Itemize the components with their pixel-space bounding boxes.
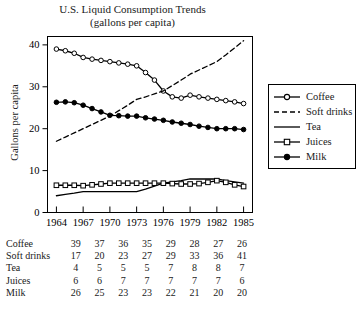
- legend-item-tea[interactable]: Tea: [269, 119, 355, 134]
- table-cell: 23: [111, 250, 135, 262]
- table-cell: 26: [230, 238, 254, 250]
- legend-sample-open-circle-icon: [273, 91, 301, 103]
- table-cell: 4: [64, 262, 88, 274]
- svg-text:1973: 1973: [126, 217, 147, 228]
- table-cell: 7: [206, 275, 230, 287]
- table-cell: 23: [135, 287, 159, 299]
- series-milk: [54, 100, 246, 132]
- x-axis-ticks: [56, 207, 243, 213]
- table-cell: 28: [183, 238, 207, 250]
- table-row: Tea45557887: [4, 262, 254, 274]
- table-row-label: Juices: [4, 275, 64, 287]
- legend-label-coffee: Coffee: [306, 91, 334, 103]
- svg-text:1967: 1967: [73, 217, 94, 228]
- svg-text:1970: 1970: [99, 217, 120, 228]
- table-cell: 33: [183, 250, 207, 262]
- svg-text:1979: 1979: [180, 217, 201, 228]
- table-cell: 29: [159, 250, 183, 262]
- legend-label-tea: Tea: [306, 121, 321, 133]
- svg-text:20: 20: [29, 123, 40, 134]
- table-cell: 6: [88, 275, 112, 287]
- svg-text:1985: 1985: [233, 217, 254, 228]
- table-cell: 35: [135, 238, 159, 250]
- chart-series-group: [54, 41, 246, 196]
- table-cell: 27: [135, 250, 159, 262]
- legend-sample-open-square-icon: [273, 136, 301, 148]
- table-cell: 20: [230, 287, 254, 299]
- table-cell: 7: [135, 275, 159, 287]
- table-cell: 29: [159, 238, 183, 250]
- table-cell: 7: [111, 275, 135, 287]
- table-cell: 20: [206, 287, 230, 299]
- table-cell: 5: [111, 262, 135, 274]
- table-row-label: Milk: [4, 287, 64, 299]
- table-row-label: Soft drinks: [4, 250, 64, 262]
- svg-text:40: 40: [29, 39, 40, 50]
- axis-frame: [48, 37, 253, 213]
- table-cell: 26: [64, 287, 88, 299]
- table-cell: 5: [135, 262, 159, 274]
- table-cell: 21: [183, 287, 207, 299]
- table-cell: 20: [88, 250, 112, 262]
- table-cell: 7: [159, 275, 183, 287]
- y-axis-title: Gallons per capita: [9, 68, 20, 178]
- svg-text:0: 0: [34, 207, 39, 218]
- table-cell: 5: [88, 262, 112, 274]
- table-cell: 39: [64, 238, 88, 250]
- table-row: Juices66777776: [4, 275, 254, 287]
- legend-sample-filled-circle-icon: [273, 151, 301, 163]
- table-cell: 7: [183, 275, 207, 287]
- legend-label-soft-drinks: Soft drinks: [306, 106, 352, 118]
- table-row: Soft drinks1720232729333641: [4, 250, 254, 262]
- table-cell: 8: [183, 262, 207, 274]
- legend-item-coffee[interactable]: Coffee: [269, 89, 355, 104]
- table-cell: 7: [230, 262, 254, 274]
- svg-text:30: 30: [29, 81, 40, 92]
- table-row-label: Tea: [4, 262, 64, 274]
- x-axis-tick-labels: 19641967197019731976197919821985: [46, 217, 254, 228]
- svg-text:1964: 1964: [46, 217, 68, 228]
- legend-item-soft-drinks[interactable]: Soft drinks: [269, 104, 355, 119]
- table-row-label: Coffee: [4, 238, 64, 250]
- table-cell: 7: [159, 262, 183, 274]
- table-cell: 6: [64, 275, 88, 287]
- table-row: Coffee3937363529282726: [4, 238, 254, 250]
- legend-item-milk[interactable]: Milk: [269, 149, 355, 164]
- legend-label-juices: Juices: [306, 136, 332, 148]
- table-cell: 23: [111, 287, 135, 299]
- data-table: Coffee3937363529282726Soft drinks1720232…: [4, 238, 254, 299]
- svg-text:1982: 1982: [206, 217, 227, 228]
- table-row: Milk2625232322212020: [4, 287, 254, 299]
- svg-text:10: 10: [29, 165, 40, 176]
- svg-text:1976: 1976: [153, 217, 174, 228]
- y-axis-ticks: [43, 45, 48, 213]
- table-cell: 27: [206, 238, 230, 250]
- table-cell: 37: [88, 238, 112, 250]
- table-cell: 8: [206, 262, 230, 274]
- chart-svg: 010203040 196419671970197319761979198219…: [0, 0, 265, 240]
- legend-label-milk: Milk: [306, 151, 326, 163]
- table-cell: 22: [159, 287, 183, 299]
- table-cell: 36: [206, 250, 230, 262]
- legend-sample-solid-line-icon: [273, 121, 301, 133]
- chart-plot-area: U.S. Liquid Consumption Trends (gallons …: [0, 0, 265, 240]
- table-cell: 36: [111, 238, 135, 250]
- legend-sample-dashed-line-icon: [273, 106, 301, 118]
- chart-legend: Coffee Soft drinks Tea Juices Milk: [268, 84, 356, 169]
- table-cell: 41: [230, 250, 254, 262]
- table-cell: 25: [88, 287, 112, 299]
- y-axis-tick-labels: 010203040: [29, 39, 40, 218]
- table-cell: 17: [64, 250, 88, 262]
- table-cell: 6: [230, 275, 254, 287]
- legend-item-juices[interactable]: Juices: [269, 134, 355, 149]
- series-coffee: [54, 47, 246, 106]
